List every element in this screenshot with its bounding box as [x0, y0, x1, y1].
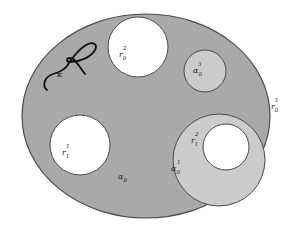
- hole-inner: [203, 124, 249, 170]
- region-diagram: κ r0 2 α0 3 r0 1 r1 1 α0 r1 2: [0, 0, 291, 233]
- hole-left: [50, 115, 110, 175]
- subregion-small: [184, 50, 226, 92]
- hole-top: [108, 17, 168, 77]
- svg-text:2: 2: [194, 131, 199, 137]
- svg-text:1: 1: [275, 97, 279, 103]
- label-curve-kappa: κ: [56, 70, 63, 79]
- label-outer-boundary: r0 1: [271, 97, 279, 113]
- svg-text:2: 2: [122, 45, 127, 51]
- svg-text:1: 1: [66, 143, 70, 149]
- svg-text:3: 3: [198, 61, 202, 67]
- svg-text:r0: r0: [271, 102, 279, 113]
- svg-text:κ: κ: [56, 70, 63, 79]
- svg-text:1: 1: [177, 159, 181, 165]
